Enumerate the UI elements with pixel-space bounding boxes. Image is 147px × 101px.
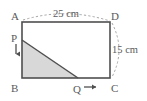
vertex-label-c: C bbox=[111, 82, 118, 94]
vertex-label-b: B bbox=[11, 82, 18, 94]
figure-canvas: A D B C P Q 25 cm 15 cm bbox=[0, 0, 147, 101]
dimension-label-right: 15 cm bbox=[112, 44, 138, 55]
vertex-label-d: D bbox=[111, 10, 119, 22]
geometry-figure: A D B C P Q 25 cm 15 cm bbox=[0, 0, 147, 101]
point-label-p: P bbox=[11, 32, 17, 44]
dimension-label-top: 25 cm bbox=[53, 8, 79, 19]
vertex-label-a: A bbox=[11, 10, 19, 22]
point-label-q: Q bbox=[73, 83, 81, 95]
